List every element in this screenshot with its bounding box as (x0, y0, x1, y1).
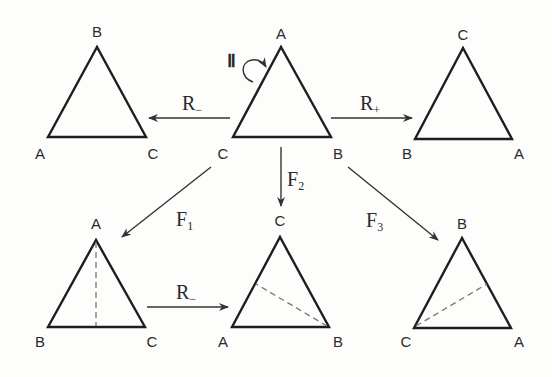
vertex-label-right: B (333, 333, 343, 350)
arrow-label: R− (176, 281, 196, 306)
arrow-label: F3 (366, 209, 383, 234)
vertex-label-top: A (91, 215, 101, 232)
triangle-shape (415, 48, 512, 139)
bottom-right-triangle: B C A (401, 215, 524, 350)
arrow-r-minus-top: R− (149, 92, 230, 118)
vertex-label-left: C (401, 333, 412, 350)
vertex-label-top: C (458, 26, 469, 43)
vertex-label-left: A (35, 145, 45, 162)
bottom-left-triangle: A B C (35, 215, 158, 350)
diagonal-arrow-icon (348, 167, 438, 240)
vertex-label-right: A (514, 333, 524, 350)
top-left-triangle: B A C (35, 23, 159, 162)
triangle-shape (48, 47, 146, 137)
vertex-label-left: A (218, 333, 228, 350)
arrow-label: R− (182, 92, 202, 117)
top-right-triangle: C B A (402, 26, 524, 162)
arrow-label: F1 (176, 208, 193, 233)
identity-symbol: Ⅱ (227, 51, 236, 71)
bottom-middle-triangle: C A B (218, 212, 343, 350)
vertex-label-top: B (457, 215, 467, 232)
vertex-label-right: A (514, 145, 524, 162)
vertex-label-left: B (35, 333, 45, 350)
center-triangle: A C B Ⅱ (218, 25, 343, 162)
arrow-r-minus-bottom: R− (147, 281, 228, 307)
triangle-shape (232, 237, 329, 327)
triangle-shape (233, 47, 331, 137)
vertex-label-top: B (92, 23, 102, 40)
arrow-r-plus-top: R+ (331, 92, 412, 118)
vertex-label-left: B (402, 145, 412, 162)
symmetry-diagram: B A C A C B Ⅱ C B A R− R+ F1 F2 F3 (0, 0, 552, 377)
arrow-f1: F1 (122, 167, 211, 237)
arrow-label: R+ (360, 92, 380, 117)
triangle-shape (414, 238, 511, 328)
vertex-label-top: C (275, 212, 286, 229)
arrow-f2: F2 (281, 147, 304, 206)
vertex-label-right: B (333, 145, 343, 162)
vertex-label-right: C (147, 333, 158, 350)
arrow-f3: F3 (348, 167, 438, 240)
diagonal-arrow-icon (122, 167, 211, 237)
arrow-label: F2 (287, 168, 304, 193)
rotation-arrow-icon (243, 60, 266, 82)
vertex-label-top: A (276, 25, 286, 42)
vertex-label-right: C (148, 145, 159, 162)
vertex-label-left: C (218, 145, 229, 162)
